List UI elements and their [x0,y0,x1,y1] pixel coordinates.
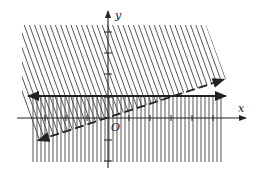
hatch-line [48,20,95,150]
dashed-boundary-line [38,80,224,141]
y-axis-label: y [114,9,122,22]
hatch-line [189,20,236,150]
hatch-line [0,20,33,150]
hatch-line [12,20,59,150]
hatch-line [204,20,251,150]
hatch-line [0,20,22,150]
hatch-line [152,20,199,150]
hatch-line [0,20,17,150]
hatch-line [7,20,54,150]
hatch-line [0,20,7,150]
hatch-line [132,20,179,150]
hatch-line [2,20,49,150]
hatch-line [100,20,147,150]
origin-label: O [111,121,120,134]
hatch-line [0,20,38,150]
diagonal-hatch-region [0,20,256,150]
inequality-graph: y x O [0,0,256,181]
hatch-line [0,20,12,150]
hatch-line [22,20,69,150]
hatch-line [168,20,215,150]
hatch-line [116,20,163,150]
hatch-line [163,20,210,150]
hatch-line [225,20,256,150]
hatch-line [220,20,256,150]
hatch-line [147,20,194,150]
hatch-line [0,20,28,150]
x-axis-label: x [238,102,245,115]
